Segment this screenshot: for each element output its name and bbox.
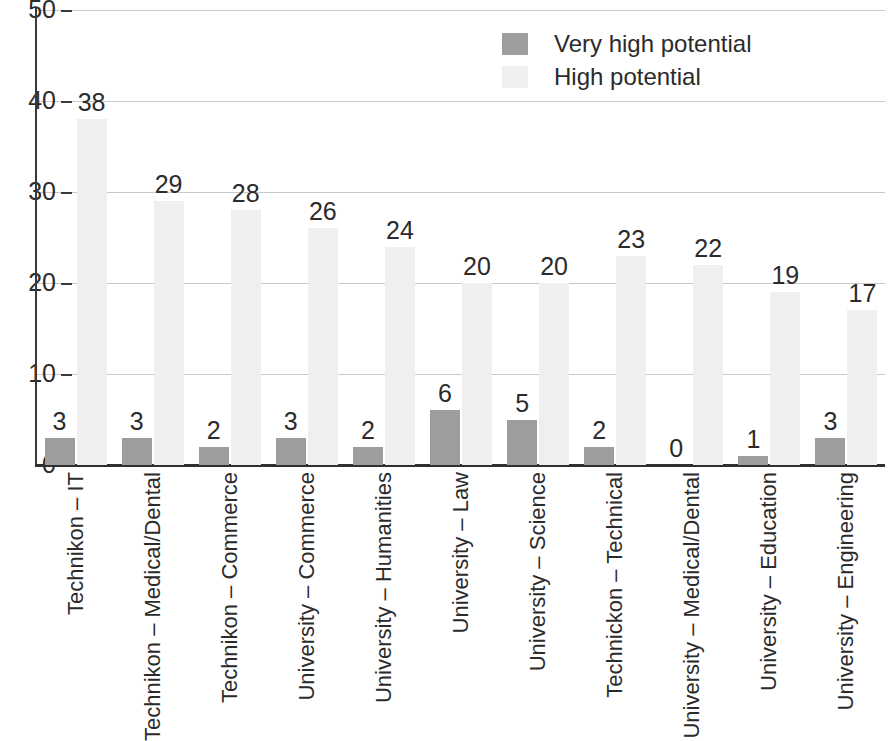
bar-value-label: 26 (293, 198, 353, 224)
x-axis-category-label: University – Education (731, 472, 808, 693)
x-axis-category-label: Technickon – Technical (577, 472, 654, 693)
bar-value-label: 29 (139, 171, 199, 197)
bar-value-label: 28 (216, 180, 276, 206)
bar-very-high-potential (45, 438, 75, 465)
x-axis-category-label: University – Commerce (268, 472, 345, 693)
bar-value-label: 23 (601, 226, 661, 252)
bar-very-high-potential (122, 438, 152, 465)
bar-high-potential (847, 310, 877, 465)
bar-high-potential (693, 265, 723, 465)
x-axis-category-label-text: University – Engineering (834, 472, 858, 710)
bar-very-high-potential (815, 438, 845, 465)
legend-item-label: High potential (554, 64, 701, 90)
bar-group: 326 (276, 10, 338, 465)
x-axis-category-label-text: Technickon – Technical (603, 472, 627, 698)
bar-group: 329 (122, 10, 184, 465)
x-axis-category-label: University – Medical/Dental (654, 472, 731, 693)
bar-high-potential (539, 283, 569, 465)
chart-legend: Very high potentialHigh potential (502, 27, 832, 93)
x-axis-category-label-text: Technikon – IT (64, 472, 88, 615)
bar-very-high-potential (584, 447, 614, 465)
bar-high-potential (77, 119, 107, 465)
x-axis-category-label-text: University – Commerce (295, 472, 319, 701)
bar-high-potential (308, 228, 338, 465)
x-axis-category-label: Technikon – Commerce (191, 472, 268, 693)
bar-value-label: 20 (447, 253, 507, 279)
x-axis-category-label-text: University – Law (449, 472, 473, 633)
bar-value-label: 20 (524, 253, 584, 279)
x-axis-category-label: University – Law (422, 472, 499, 693)
bar-high-potential (770, 292, 800, 465)
bar-high-potential (385, 247, 415, 465)
bar-high-potential (154, 201, 184, 465)
bar-very-high-potential (199, 447, 229, 465)
x-axis-category-label-text: University – Education (757, 472, 781, 691)
x-axis-category-label-text: Technikon – Commerce (218, 472, 242, 703)
legend-swatch-icon (502, 66, 528, 88)
x-axis-category-label-text: University – Humanities (372, 472, 396, 703)
bar-very-high-potential (353, 447, 383, 465)
legend-item: Very high potential (502, 27, 832, 60)
legend-item: High potential (502, 60, 832, 93)
legend-item-label: Very high potential (554, 31, 751, 57)
bar-very-high-potential (738, 456, 768, 465)
x-axis-category-label: University – Humanities (345, 472, 422, 693)
x-axis-category-label: University – Engineering (808, 472, 885, 693)
x-axis-category-label-text: Technikon – Medical/Dental (141, 472, 165, 741)
x-axis-category-label: University – Science (500, 472, 577, 693)
bar-high-potential (462, 283, 492, 465)
x-axis-category-labels: Technikon – ITTechnikon – Medical/Dental… (37, 472, 885, 693)
bar-value-label: 19 (755, 262, 815, 288)
x-axis-category-label-text: University – Science (526, 472, 550, 671)
bar-value-label: 24 (370, 217, 430, 243)
bar-group: 338 (45, 10, 107, 465)
bar-value-label: 17 (832, 280, 892, 306)
bar-value-label: 22 (678, 235, 738, 261)
legend-swatch-icon (502, 33, 528, 55)
bar-group: 620 (430, 10, 492, 465)
bar-high-potential (231, 210, 261, 465)
bar-group: 228 (199, 10, 261, 465)
bar-group: 224 (353, 10, 415, 465)
x-axis-category-label: Technikon – Medical/Dental (114, 472, 191, 693)
bar-very-high-potential (430, 410, 460, 465)
bar-very-high-potential (507, 420, 537, 466)
bar-very-high-potential (276, 438, 306, 465)
x-axis-category-label: Technikon – IT (37, 472, 114, 693)
x-axis-category-label-text: University – Medical/Dental (680, 472, 704, 739)
bar-value-label: 38 (62, 89, 122, 115)
bar-high-potential (616, 256, 646, 465)
